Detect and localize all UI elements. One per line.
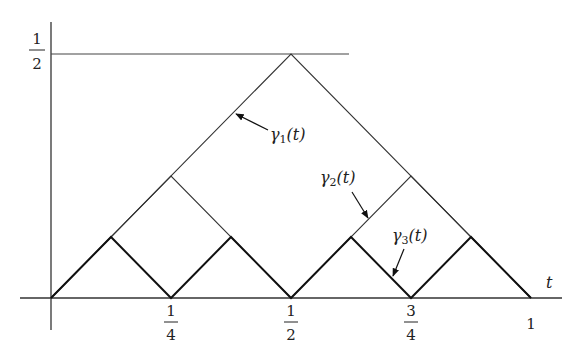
svg-text:1: 1 [286,302,296,320]
svg-text:2: 2 [32,55,42,73]
gamma-2-label: γ2(t) [320,168,355,189]
x-axis-label: t [546,273,553,292]
svg-text:1: 1 [166,302,176,320]
svg-text:4: 4 [166,326,176,344]
gamma-1-arrow [236,114,268,130]
svg-text:4: 4 [406,326,416,344]
x-tick-one: 1 [526,315,536,333]
gamma-3-arrow [393,249,404,276]
curve-gamma-2 [51,176,531,298]
gamma-3-label: γ3(t) [392,226,427,247]
curve-gamma-1 [51,54,531,298]
x-tick-quarter: 1 4 [164,302,178,344]
y-tick-half: 1 2 [29,30,45,73]
diagram-canvas: 1 2 1 4 1 2 3 4 1 t γ1(t) γ2(t) γ3(t) [0,0,571,363]
gamma-1-label: γ1(t) [270,125,305,146]
svg-text:2: 2 [286,326,296,344]
x-tick-half: 1 2 [284,302,298,344]
svg-text:3: 3 [406,302,416,320]
svg-text:1: 1 [32,30,42,48]
x-tick-three-quarters: 3 4 [404,302,418,344]
gamma-2-arrow [352,192,368,218]
curve-gamma-3 [51,237,531,298]
